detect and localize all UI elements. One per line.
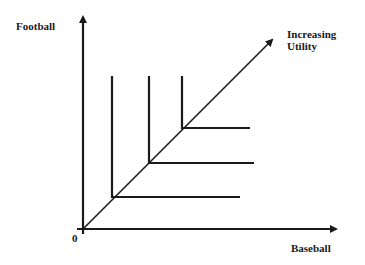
increasing-utility-label-line2: Utility bbox=[287, 40, 336, 52]
indifference-curve-2 bbox=[149, 76, 254, 163]
x-axis-label: Baseball bbox=[291, 242, 331, 254]
y-axis-label: Football bbox=[16, 20, 55, 32]
increasing-utility-label-line1: Increasing bbox=[287, 28, 336, 40]
increasing-utility-label: Increasing Utility bbox=[287, 28, 336, 52]
origin-label: 0 bbox=[72, 232, 78, 244]
